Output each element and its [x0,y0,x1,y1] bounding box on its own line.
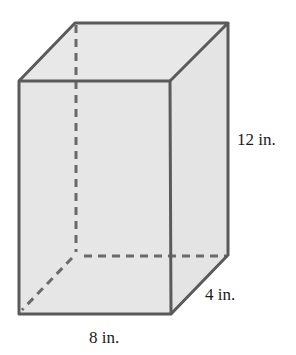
height-label: 12 in. [237,130,276,149]
prism-diagram: 12 in. 4 in. 8 in. [0,0,296,355]
depth-label: 4 in. [205,285,235,304]
front-face [19,81,171,314]
width-label: 8 in. [89,328,119,347]
